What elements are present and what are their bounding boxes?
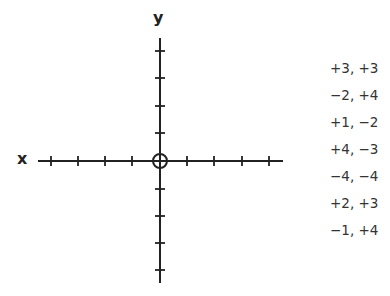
axes-graphic — [0, 0, 300, 296]
coordinate-pair: +3, +3 — [330, 59, 378, 86]
coordinate-pairs-list: +3, +3 −2, +4 +1, −2 +4, −3 −4, −4 +2, +… — [330, 59, 378, 248]
coordinate-pair: −2, +4 — [330, 86, 378, 113]
coordinate-plane: x y — [0, 0, 300, 296]
coordinate-pair: +2, +3 — [330, 194, 378, 221]
y-axis-label: y — [153, 10, 163, 26]
coordinate-pair: +1, −2 — [330, 113, 378, 140]
coordinate-pair: −4, −4 — [330, 167, 378, 194]
coordinate-pair: −1, +4 — [330, 221, 378, 248]
coordinate-pair: +4, −3 — [330, 140, 378, 167]
x-axis-label: x — [17, 151, 27, 167]
